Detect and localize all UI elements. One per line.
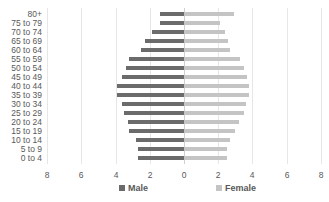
bar-male[interactable] xyxy=(129,129,184,133)
bar-female[interactable] xyxy=(184,48,230,52)
gridline xyxy=(47,8,48,164)
legend: Male Female xyxy=(0,183,329,197)
bar-male[interactable] xyxy=(122,102,184,106)
bar-female[interactable] xyxy=(184,84,249,88)
bar-female[interactable] xyxy=(184,147,227,151)
bar-female[interactable] xyxy=(184,156,227,160)
bar-male[interactable] xyxy=(129,57,184,61)
x-tick-label: 4 xyxy=(106,170,126,180)
legend-item-male[interactable]: Male xyxy=(119,183,148,193)
bar-male[interactable] xyxy=(160,12,184,16)
bar-female[interactable] xyxy=(184,57,240,61)
y-tick-label: 0 to 4 xyxy=(21,154,42,163)
bar-female[interactable] xyxy=(184,21,220,25)
gridline xyxy=(287,8,288,164)
bar-female[interactable] xyxy=(184,129,235,133)
legend-item-female[interactable]: Female xyxy=(216,183,256,193)
bar-female[interactable] xyxy=(184,66,244,70)
bar-male[interactable] xyxy=(145,39,184,43)
female-swatch-icon xyxy=(216,185,222,191)
male-swatch-icon xyxy=(119,185,125,191)
bar-male[interactable] xyxy=(117,93,184,97)
x-tick-label: 6 xyxy=(277,170,297,180)
x-tick-label: 8 xyxy=(311,170,329,180)
population-pyramid-chart: 80+75 to 7970 to 7465 to 6960 to 6455 to… xyxy=(0,0,329,202)
bar-female[interactable] xyxy=(184,102,246,106)
bar-male[interactable] xyxy=(152,30,184,34)
bar-male[interactable] xyxy=(138,156,184,160)
bar-male[interactable] xyxy=(138,147,184,151)
x-tick-label: 0 xyxy=(174,170,194,180)
bar-male[interactable] xyxy=(136,138,184,142)
x-tick-label: 8 xyxy=(37,170,57,180)
gridline xyxy=(321,8,322,164)
bar-male[interactable] xyxy=(128,120,184,124)
y-axis-labels: 80+75 to 7970 to 7465 to 6960 to 6455 to… xyxy=(0,10,42,163)
gridline xyxy=(252,8,253,164)
bar-male[interactable] xyxy=(122,75,184,79)
x-tick-label: 6 xyxy=(71,170,91,180)
bar-female[interactable] xyxy=(184,138,230,142)
gridline xyxy=(81,8,82,164)
legend-label-male: Male xyxy=(128,183,148,193)
bar-male[interactable] xyxy=(124,111,184,115)
bar-female[interactable] xyxy=(184,30,225,34)
x-tick-label: 2 xyxy=(140,170,160,180)
bar-male[interactable] xyxy=(117,84,184,88)
bar-female[interactable] xyxy=(184,39,228,43)
bar-female[interactable] xyxy=(184,75,247,79)
x-tick-label: 2 xyxy=(208,170,228,180)
legend-label-female: Female xyxy=(225,183,256,193)
bar-male[interactable] xyxy=(141,48,184,52)
x-tick-label: 4 xyxy=(242,170,262,180)
bar-female[interactable] xyxy=(184,120,239,124)
bar-female[interactable] xyxy=(184,111,244,115)
bar-male[interactable] xyxy=(160,21,184,25)
bar-male[interactable] xyxy=(126,66,184,70)
bar-female[interactable] xyxy=(184,93,249,97)
bar-female[interactable] xyxy=(184,12,234,16)
